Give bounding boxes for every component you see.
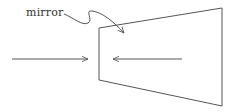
mirror-diagram: mirror bbox=[0, 0, 236, 112]
label-pointer-arrow bbox=[64, 11, 124, 33]
mirror-trapezoid bbox=[99, 8, 222, 106]
mirror-label: mirror bbox=[26, 6, 64, 19]
